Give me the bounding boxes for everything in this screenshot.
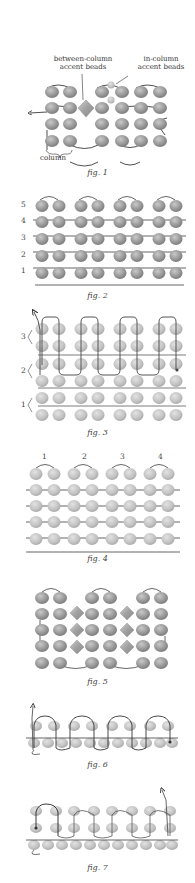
thread-start-dot (168, 740, 171, 743)
fig6-caption: fig. 6 (0, 760, 195, 769)
fig5-caption: fig. 5 (0, 677, 195, 686)
label-line: in-column (130, 55, 192, 63)
label-line: between-column (44, 55, 122, 63)
thread-loop (32, 750, 40, 755)
fig5-diagram (35, 589, 168, 670)
beads (28, 806, 178, 850)
thread-loop (32, 850, 40, 855)
row-bracket (28, 398, 32, 412)
label-line: accent beads (44, 63, 122, 71)
label-in-column-accent-beads: in-column accent beads (130, 55, 192, 71)
between-column-accent-bead (78, 100, 94, 117)
fig6-diagram (26, 706, 178, 755)
beads (36, 200, 183, 279)
beads (30, 468, 175, 545)
label-line: accent beads (130, 63, 192, 71)
thread-start-dot (176, 369, 179, 372)
pointer-line (82, 74, 83, 100)
in-column-accent-bead (108, 82, 115, 89)
column-number: 1 (42, 452, 47, 461)
column-number: 2 (82, 452, 87, 461)
row-number: 3 (21, 233, 26, 242)
row-number: 2 (21, 366, 26, 375)
row-number: 1 (21, 266, 26, 275)
row-number: 1 (21, 400, 26, 409)
label-column: column (40, 154, 80, 162)
fig1-caption: fig. 1 (0, 168, 195, 177)
row-number: 4 (21, 216, 26, 225)
row-bracket (28, 364, 32, 378)
fig4-caption: fig. 4 (0, 554, 195, 563)
beads (45, 86, 167, 147)
column-number: 3 (120, 452, 125, 461)
label-between-column-accent-beads: between-column accent beads (44, 55, 122, 71)
fig4-diagram (26, 465, 180, 553)
fig7-diagram (26, 790, 178, 855)
pointer-line (116, 76, 128, 84)
fig2-diagram (33, 197, 186, 286)
row-number: 3 (21, 332, 26, 341)
beads (28, 721, 178, 748)
fig1-diagram (30, 74, 167, 166)
fig3-diagram (28, 312, 186, 421)
accent-diamond-beads (70, 606, 134, 654)
fig2-caption: fig. 2 (0, 291, 195, 300)
row-number: 2 (21, 250, 26, 259)
in-column-accent-bead (108, 97, 115, 104)
fig3-caption: fig. 3 (0, 428, 195, 437)
column-number: 4 (158, 452, 163, 461)
row-number: 5 (21, 200, 26, 209)
beads (35, 592, 168, 669)
fig7-caption: fig. 7 (0, 863, 195, 872)
figures-canvas (0, 0, 195, 883)
row-bracket (28, 330, 32, 344)
thread-start-dot (34, 826, 37, 829)
